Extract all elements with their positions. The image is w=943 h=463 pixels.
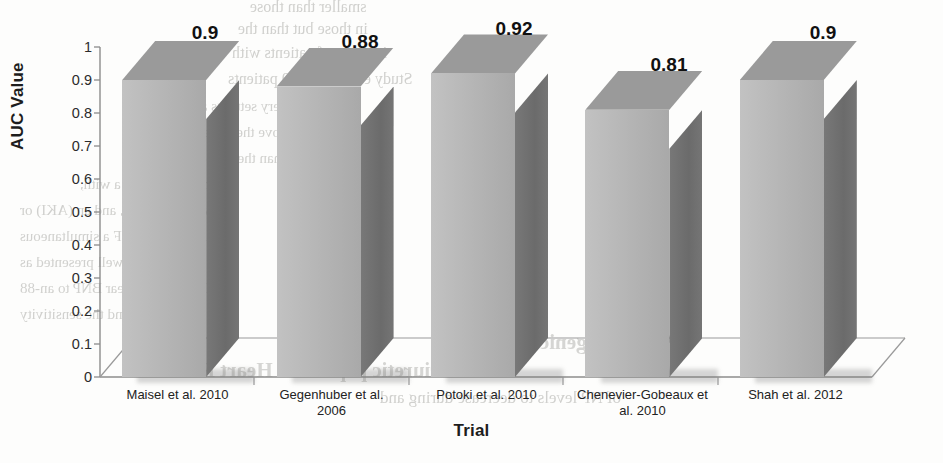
bar-top-face <box>585 71 702 112</box>
bar-top-face <box>740 41 857 82</box>
x-tick-label: Potoki et al. 2010 <box>419 387 554 403</box>
x-tick-label: Maisel et al. 2010 <box>110 387 245 403</box>
bar-top-face <box>277 48 394 89</box>
y-axis-title: AUC Value <box>8 62 28 150</box>
bar-value-label: 0.88 <box>305 31 415 53</box>
y-tick-label: 0.9 <box>72 72 92 88</box>
x-tick-label: Gegenhuber et al. 2006 <box>264 387 399 419</box>
bar-value-label: 0.81 <box>614 54 724 76</box>
x-axis-title: Trial <box>0 421 943 441</box>
bar-value-label: 0.9 <box>768 22 878 44</box>
bar-value-label: 0.9 <box>150 22 260 44</box>
bar-column <box>740 41 857 377</box>
bar-front-face <box>431 73 515 377</box>
y-tick-label: 1 <box>84 39 92 55</box>
bar-column <box>122 41 239 377</box>
y-tick-label: 0.5 <box>72 204 92 220</box>
bar-front-face <box>277 87 361 377</box>
bar-top-face <box>431 34 548 75</box>
bar-column <box>585 71 702 377</box>
bar-front-face <box>740 80 824 377</box>
bar-front-face <box>585 110 669 377</box>
y-tick-label: 0 <box>84 369 92 385</box>
bar-column <box>277 48 394 377</box>
y-tick-label: 0.4 <box>72 237 92 253</box>
x-tick-label: Shah et al. 2012 <box>728 387 863 403</box>
bar-value-label: 0.92 <box>459 18 569 40</box>
y-tick-label: 0.1 <box>72 336 92 352</box>
bar-top-face <box>122 41 239 82</box>
y-tick-label: 0.3 <box>72 270 92 286</box>
x-tick-label: Chenevier-Gobeaux et al. 2010 <box>570 387 715 419</box>
bar-side-face <box>515 73 548 377</box>
y-tick-label: 0.2 <box>72 303 92 319</box>
bar-side-face <box>206 80 239 377</box>
auc-bar-chart: AUC Value 1 0.9 0.8 0.7 0.6 0.5 0.4 0.3 … <box>0 0 943 463</box>
y-tick-label: 0.8 <box>72 105 92 121</box>
bar-side-face <box>361 87 394 377</box>
bar-side-face <box>824 80 857 377</box>
bar-front-face <box>122 80 206 377</box>
y-tick-label: 0.6 <box>72 171 92 187</box>
y-axis-tick-labels: 1 0.9 0.8 0.7 0.6 0.5 0.4 0.3 0.2 0.1 0 <box>40 0 92 463</box>
bar-side-face <box>669 110 702 377</box>
y-tick-label: 0.7 <box>72 138 92 154</box>
bar-column <box>431 34 548 377</box>
